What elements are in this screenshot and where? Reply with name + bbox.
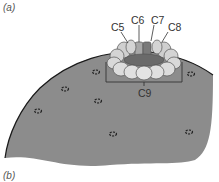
trichome-ring xyxy=(107,40,181,80)
panel-label-a: (a) xyxy=(3,2,15,13)
label-c9: C9 xyxy=(138,87,152,99)
leader-lines xyxy=(121,25,168,43)
panel-label-b: (b) xyxy=(3,170,15,181)
label-c6: C6 xyxy=(131,14,145,26)
label-c8: C8 xyxy=(168,21,182,33)
label-c7: C7 xyxy=(151,14,165,26)
label-c5: C5 xyxy=(111,21,125,33)
diagram: (a) (b) C5 C6 C7 C8 C9 xyxy=(0,0,219,182)
